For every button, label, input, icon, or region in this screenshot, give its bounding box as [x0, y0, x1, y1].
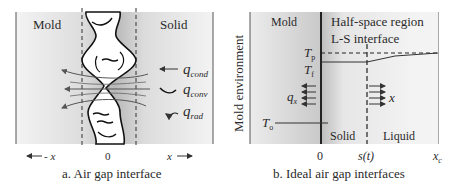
- liquid-label: Liquid: [383, 129, 415, 143]
- panel-b: Mold environment Mold Half-space region …: [231, 12, 442, 181]
- solid-region-label: Solid: [160, 17, 188, 32]
- origin-label: 0: [105, 150, 111, 162]
- negative-x-label: - x: [44, 150, 55, 162]
- panel-a-caption: a. Air gap interface: [62, 166, 162, 181]
- solid-label: Solid: [330, 129, 355, 143]
- ls-interface-label: L-S interface: [331, 31, 399, 46]
- x-direction-label: x: [388, 90, 395, 105]
- interface-tick-label: s(t): [358, 149, 374, 163]
- liquid-region-fill: [409, 12, 438, 144]
- mold-region-label: Mold: [33, 17, 62, 32]
- xc-tick-label: xc: [432, 149, 442, 165]
- positive-x-label: x: [166, 150, 172, 162]
- figure: qcond qconv qrad Mold Solid - x 0 x a. A…: [0, 0, 458, 186]
- half-space-title: Half-space region: [331, 14, 424, 29]
- mold-environment-label: Mold environment: [231, 34, 246, 132]
- mold-label: Mold: [271, 15, 297, 29]
- panel-a: qcond qconv qrad Mold Solid - x 0 x a. A…: [16, 8, 213, 181]
- origin-tick-label: 0: [317, 149, 323, 163]
- panel-b-caption: b. Ideal air gap interfaces: [273, 166, 405, 181]
